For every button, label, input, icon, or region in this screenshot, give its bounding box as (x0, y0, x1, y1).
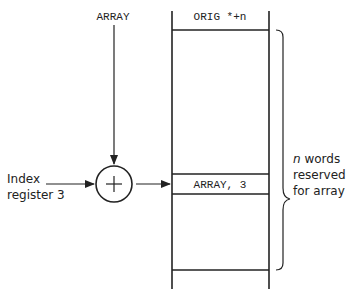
memory-block: ORIG *+n ARRAY, 3 (172, 11, 269, 289)
brace-annotation-line2: reserved (293, 168, 346, 182)
indexed-addressing-diagram: ARRAY Index register 3 ORIG *+n ARRAY, 3… (0, 0, 349, 298)
array-label: ARRAY (96, 11, 129, 23)
memory-header-label: ORIG *+n (194, 11, 247, 23)
brace-annotation-line3: for array (293, 184, 345, 198)
curly-brace-icon (276, 30, 290, 270)
adder-node (96, 166, 132, 202)
n-variable: n (293, 152, 301, 166)
index-label-line1: Index (7, 172, 40, 186)
brace-annotation-line1: n words (293, 152, 340, 166)
words-text: words (301, 152, 341, 166)
selected-cell-label: ARRAY, 3 (194, 179, 247, 191)
index-label-line2: register 3 (7, 188, 65, 202)
